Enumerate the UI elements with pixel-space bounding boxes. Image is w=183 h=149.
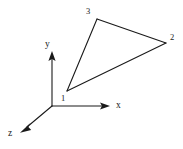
vertex-label-3: 3: [86, 7, 90, 16]
triangle-edge-3-2: [97, 19, 166, 43]
z-axis-line: [27, 106, 52, 127]
triangle-edge-2-1: [67, 43, 166, 91]
diagram-canvas: x y z 1 2 3: [0, 0, 183, 149]
triangle-edge-1-3: [67, 19, 97, 91]
y-axis: [48, 51, 55, 106]
diagram-vector-layer: [0, 0, 183, 149]
y-axis-label: y: [45, 40, 50, 50]
vertex-label-1: 1: [61, 94, 65, 103]
x-axis: [52, 102, 110, 109]
z-axis: [20, 106, 52, 133]
x-axis-label: x: [116, 101, 121, 111]
triangle-element: [67, 19, 166, 91]
vertex-label-2: 2: [170, 33, 174, 42]
z-axis-label: z: [8, 129, 12, 139]
